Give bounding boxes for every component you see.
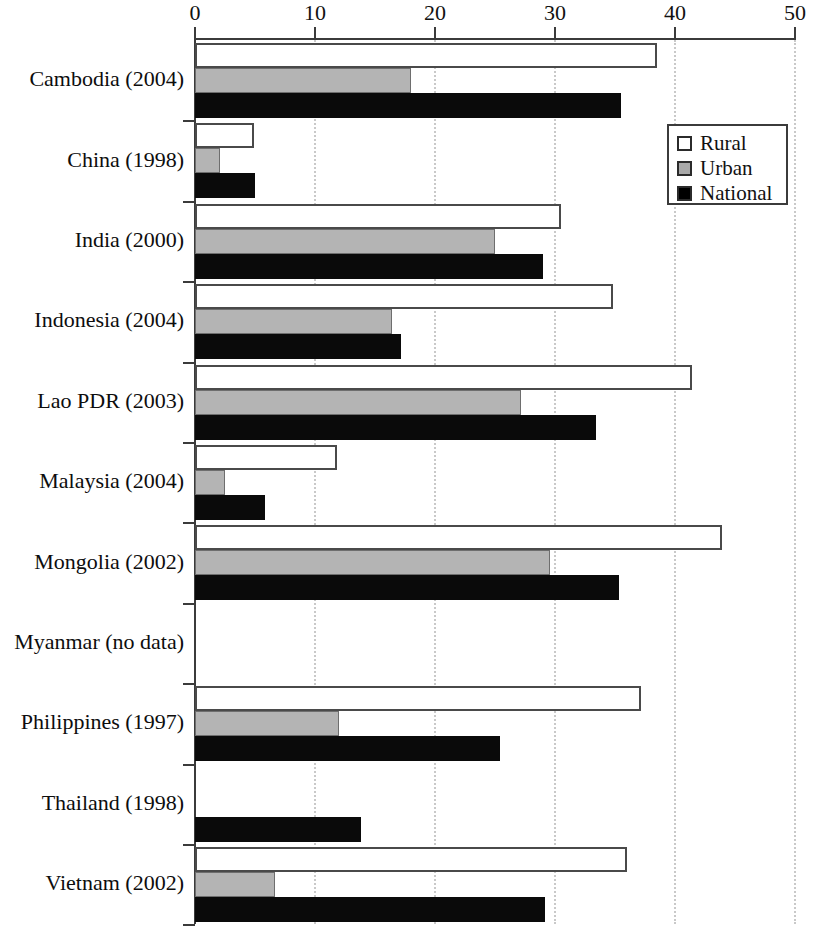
white-square-icon: [677, 136, 692, 151]
x-tick-label: 30: [544, 2, 566, 24]
category-row: Vietnam (2002): [0, 844, 819, 924]
bar-rural: [195, 284, 613, 309]
bar-urban: [195, 148, 220, 173]
category-label: Indonesia (2004): [0, 309, 184, 331]
bar-rural: [195, 123, 254, 148]
bar-urban: [195, 550, 550, 575]
x-tick-label: 50: [784, 2, 806, 24]
category-label: China (1998): [0, 149, 184, 171]
category-label: Philippines (1997): [0, 711, 184, 733]
category-label: Cambodia (2004): [0, 68, 184, 90]
category-label: India (2000): [0, 229, 184, 251]
x-tick-mark: [314, 27, 316, 39]
legend-label-rural: Rural: [700, 133, 747, 154]
x-tick-label: 40: [664, 2, 686, 24]
bar-rural: [195, 204, 561, 229]
bar-urban: [195, 470, 225, 495]
horizontal-bar-chart: 01020304050 Cambodia (2004)China (1998)I…: [0, 0, 819, 934]
bar-rural: [195, 525, 722, 550]
category-row: Indonesia (2004): [0, 281, 819, 361]
category-row: Malaysia (2004): [0, 442, 819, 522]
bar-rural: [195, 365, 692, 390]
category-label: Thailand (1998): [0, 792, 184, 814]
category-row: Thailand (1998): [0, 764, 819, 844]
category-row: Mongolia (2002): [0, 522, 819, 602]
x-tick-label: 20: [424, 2, 446, 24]
bar-urban: [195, 390, 521, 415]
x-tick-mark: [674, 27, 676, 39]
category-divider-tick: [183, 924, 195, 926]
category-row: Philippines (1997): [0, 683, 819, 763]
x-tick-mark: [794, 27, 796, 39]
bar-national: [195, 736, 500, 761]
category-row: Lao PDR (2003): [0, 362, 819, 442]
bar-national: [195, 334, 401, 359]
x-tick-mark: [194, 27, 196, 39]
bar-national: [195, 173, 255, 198]
legend-label-urban: Urban: [700, 158, 752, 179]
bar-rural: [195, 43, 657, 68]
chart-legend: Rural Urban National: [667, 124, 788, 205]
bar-national: [195, 817, 361, 842]
bar-national: [195, 897, 545, 922]
bar-national: [195, 575, 619, 600]
bar-national: [195, 495, 265, 520]
bar-national: [195, 254, 543, 279]
category-label: Lao PDR (2003): [0, 390, 184, 412]
bar-urban: [195, 711, 339, 736]
legend-item-national: National: [677, 181, 786, 205]
legend-item-rural: Rural: [677, 131, 786, 155]
black-square-icon: [677, 186, 692, 201]
category-row: India (2000): [0, 201, 819, 281]
category-label: Vietnam (2002): [0, 872, 184, 894]
x-tick-mark: [434, 27, 436, 39]
category-label: Myanmar (no data): [0, 631, 184, 653]
bar-urban: [195, 229, 495, 254]
legend-item-urban: Urban: [677, 156, 786, 180]
x-tick-mark: [554, 27, 556, 39]
category-label: Malaysia (2004): [0, 470, 184, 492]
x-tick-label: 10: [304, 2, 326, 24]
gray-square-icon: [677, 161, 692, 176]
category-row: Cambodia (2004): [0, 40, 819, 120]
bar-national: [195, 415, 596, 440]
x-tick-label: 0: [190, 2, 201, 24]
legend-label-national: National: [700, 183, 772, 204]
bar-urban: [195, 872, 275, 897]
category-label: Mongolia (2002): [0, 551, 184, 573]
bar-rural: [195, 445, 337, 470]
bar-national: [195, 93, 621, 118]
bar-urban: [195, 309, 392, 334]
category-row: Myanmar (no data): [0, 603, 819, 683]
bar-rural: [195, 686, 641, 711]
bar-urban: [195, 68, 411, 93]
bar-rural: [195, 847, 627, 872]
